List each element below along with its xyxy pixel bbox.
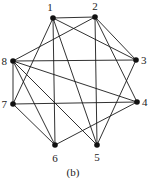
node-label-4: 4 <box>142 96 148 108</box>
edge-1-6 <box>53 18 55 145</box>
node-label-6: 6 <box>52 152 58 164</box>
node-4 <box>134 99 140 105</box>
node-1 <box>50 15 56 21</box>
edge-6-7 <box>13 104 55 145</box>
graph-diagram: 12345678 (b) <box>0 0 150 183</box>
edge-1-2 <box>53 17 95 18</box>
edge-3-8 <box>13 60 136 61</box>
caption: (b) <box>67 166 80 179</box>
edge-2-4 <box>95 17 137 102</box>
node-label-2: 2 <box>92 0 98 12</box>
edge-4-8 <box>13 61 137 102</box>
node-label-3: 3 <box>141 54 147 66</box>
node-3 <box>133 57 139 63</box>
node-2 <box>92 14 98 20</box>
node-label-8: 8 <box>2 55 8 67</box>
node-label-1: 1 <box>47 1 53 13</box>
node-8 <box>10 58 16 64</box>
node-6 <box>52 142 58 148</box>
node-label-5: 5 <box>94 151 100 163</box>
edges-group <box>13 17 137 145</box>
node-label-7: 7 <box>2 98 8 110</box>
edge-2-5 <box>95 17 97 145</box>
node-5 <box>94 142 100 148</box>
node-7 <box>10 101 16 107</box>
edge-4-7 <box>13 102 137 104</box>
edge-2-3 <box>95 17 136 60</box>
